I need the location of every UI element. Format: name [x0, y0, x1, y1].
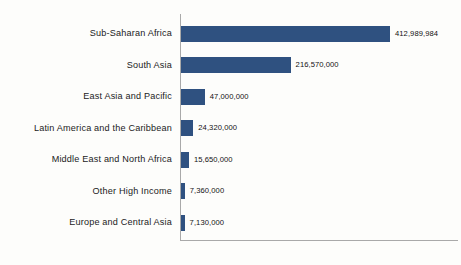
category-label: Other High Income	[0, 187, 172, 196]
table-row: Other High Income 7,360,000	[0, 176, 461, 208]
bar-track: 15,650,000	[181, 144, 461, 176]
bar-value-label: 47,000,000	[210, 93, 249, 101]
category-label: South Asia	[0, 61, 172, 70]
bar-value-label: 15,650,000	[194, 156, 233, 164]
bar-chart-figure: Sub-Saharan Africa 412,989,984 South Asi…	[0, 0, 461, 265]
bar-south-asia	[181, 57, 291, 73]
category-baseline-axis	[180, 240, 458, 241]
table-row: Middle East and North Africa 15,650,000	[0, 144, 461, 176]
category-label: Europe and Central Asia	[0, 218, 172, 227]
bar-europe-and-central-asia	[181, 215, 185, 231]
bar-value-label: 216,570,000	[296, 61, 339, 69]
bar-track: 7,130,000	[181, 207, 461, 239]
bar-value-label: 7,130,000	[190, 219, 224, 227]
bar-track: 24,320,000	[181, 113, 461, 145]
bar-east-asia-and-pacific	[181, 89, 205, 105]
table-row: South Asia 216,570,000	[0, 50, 461, 82]
bar-value-label: 24,320,000	[198, 124, 237, 132]
bar-value-label: 7,360,000	[190, 187, 224, 195]
category-label: Latin America and the Caribbean	[0, 124, 172, 133]
bar-track: 7,360,000	[181, 176, 461, 208]
bar-sub-saharan-africa	[181, 26, 390, 42]
bar-track: 412,989,984	[181, 18, 461, 50]
bar-other-high-income	[181, 183, 185, 199]
bar-middle-east-and-north-africa	[181, 152, 189, 168]
category-label: Middle East and North Africa	[0, 155, 172, 164]
table-row: Europe and Central Asia 7,130,000	[0, 207, 461, 239]
bar-track: 216,570,000	[181, 50, 461, 82]
table-row: East Asia and Pacific 47,000,000	[0, 81, 461, 113]
table-row: Latin America and the Caribbean 24,320,0…	[0, 113, 461, 145]
category-label: Sub-Saharan Africa	[0, 29, 172, 38]
bar-latin-america-and-the-caribbean	[181, 120, 193, 136]
bar-track: 47,000,000	[181, 81, 461, 113]
bar-row-list: Sub-Saharan Africa 412,989,984 South Asi…	[0, 18, 461, 239]
table-row: Sub-Saharan Africa 412,989,984	[0, 18, 461, 50]
bar-value-label: 412,989,984	[395, 30, 438, 38]
plot-area: Sub-Saharan Africa 412,989,984 South Asi…	[0, 0, 461, 265]
category-label: East Asia and Pacific	[0, 92, 172, 101]
